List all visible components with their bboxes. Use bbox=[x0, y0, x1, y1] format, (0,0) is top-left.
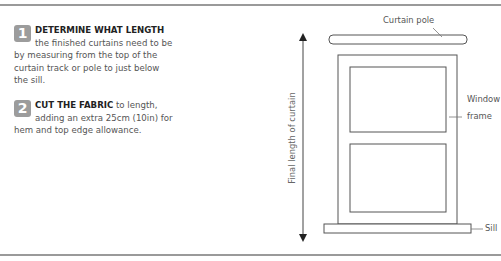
arrow-down-icon bbox=[299, 234, 307, 242]
lower-pane-shape bbox=[350, 144, 446, 212]
window-measurement-diagram bbox=[0, 0, 501, 261]
sill-label: Sill bbox=[485, 223, 497, 233]
final-length-label: Final length of curtain bbox=[287, 92, 297, 183]
upper-pane-shape bbox=[350, 67, 446, 132]
arrow-up-icon bbox=[299, 33, 307, 41]
sill-shape bbox=[324, 224, 471, 233]
length-arrow bbox=[299, 33, 307, 242]
curtain-pole-shape bbox=[329, 35, 467, 44]
frame-label: frame bbox=[467, 111, 492, 121]
window-label: Window bbox=[467, 94, 500, 104]
curtain-pole-label: Curtain pole bbox=[383, 15, 434, 25]
